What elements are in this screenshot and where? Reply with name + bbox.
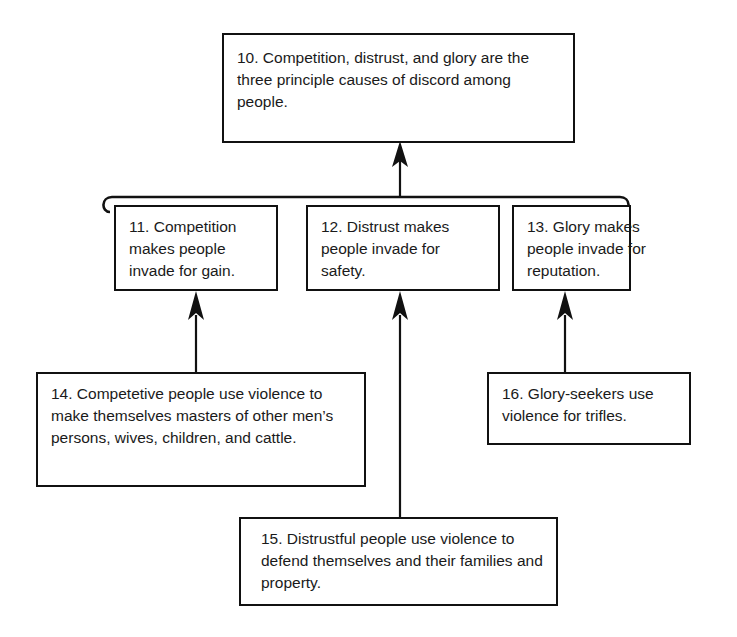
argument-diagram-canvas: 10. Competition, distrust, and glory are… xyxy=(0,0,737,637)
node-10-conclusion[interactable]: 10. Competition, distrust, and glory are… xyxy=(222,33,575,143)
node-10-text: 10. Competition, distrust, and glory are… xyxy=(224,35,573,121)
arrowhead-to-10 xyxy=(392,141,408,167)
node-12-premise[interactable]: 12. Distrust makes people invade for saf… xyxy=(306,205,500,291)
node-11-text: 11. Competition makes people invade for … xyxy=(116,207,276,290)
node-13-text: 13. Glory makes people invade for reputa… xyxy=(514,207,699,290)
node-11-premise[interactable]: 11. Competition makes people invade for … xyxy=(114,205,278,291)
arrowhead-to-12 xyxy=(392,291,408,320)
node-14-text: 14. Competetive people use violence to m… xyxy=(38,374,364,457)
node-16-text: 16. Glory-seekers use violence for trifl… xyxy=(489,374,689,435)
node-15-sub-premise[interactable]: 15. Distrustful people use violence to d… xyxy=(239,517,558,606)
arrowhead-to-13 xyxy=(557,291,573,320)
node-15-text: 15. Distrustful people use violence to d… xyxy=(241,519,556,602)
node-14-sub-premise[interactable]: 14. Competetive people use violence to m… xyxy=(36,372,366,487)
node-16-sub-premise[interactable]: 16. Glory-seekers use violence for trifl… xyxy=(487,372,691,445)
arrowhead-to-11 xyxy=(188,291,204,320)
node-13-premise[interactable]: 13. Glory makes people invade for reputa… xyxy=(512,205,631,291)
node-12-text: 12. Distrust makes people invade for saf… xyxy=(308,207,498,290)
